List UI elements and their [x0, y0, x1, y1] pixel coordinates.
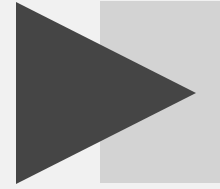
diagram-canvas [0, 0, 220, 189]
diagram-svg [0, 0, 220, 189]
